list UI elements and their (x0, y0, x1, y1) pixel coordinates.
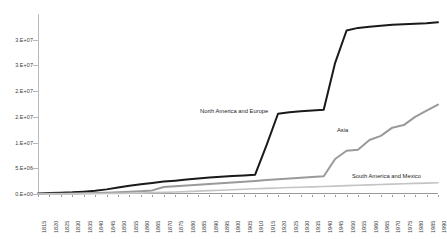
x-axis-tick (95, 195, 96, 197)
x-axis-labels: 1815182018251830183518401845185018551860… (38, 195, 438, 239)
x-axis-tick-label: 1830 (75, 221, 81, 233)
y-axis-tick (33, 91, 38, 92)
series-line-asia (38, 105, 438, 194)
y-axis-tick (33, 168, 38, 169)
x-axis-tick-label: 1960 (373, 221, 379, 233)
x-axis-tick-label: 1895 (224, 221, 230, 233)
x-axis-tick-label: 1990 (441, 221, 447, 233)
y-axis-tick (33, 117, 38, 118)
x-axis-tick-label: 1850 (121, 221, 127, 233)
x-axis-tick-label: 1935 (315, 221, 321, 233)
series-label-north-america-and-europe: North America and Europe (200, 108, 268, 115)
x-axis-tick-label: 1870 (167, 221, 173, 233)
x-axis-tick-label: 1945 (338, 221, 344, 233)
x-axis-tick-label: 1820 (53, 221, 59, 233)
x-axis-tick-label: 1860 (144, 221, 150, 233)
x-axis-tick-label: 1910 (258, 221, 264, 233)
x-axis-tick-label: 1845 (110, 221, 116, 233)
x-axis-tick (324, 195, 325, 197)
x-axis-tick (61, 195, 62, 197)
x-axis-tick-label: 1915 (270, 221, 276, 233)
x-axis-tick-label: 1890 (213, 221, 219, 233)
y-axis-tick (33, 194, 38, 195)
y-axis-tick (33, 65, 38, 66)
x-axis-tick-label: 1855 (133, 221, 139, 233)
x-axis-line (38, 193, 438, 194)
y-axis-tick-label: 2.E+07 (3, 88, 33, 94)
x-axis-tick-label: 1880 (190, 221, 196, 233)
x-axis-tick-label: 1950 (350, 221, 356, 233)
y-axis-tick (33, 143, 38, 144)
x-axis-tick-label: 1965 (384, 221, 390, 233)
x-axis-tick-label: 1865 (155, 221, 161, 233)
x-axis-tick (175, 195, 176, 197)
x-axis-tick (358, 195, 359, 197)
x-axis-tick (415, 195, 416, 197)
x-axis-tick (404, 195, 405, 197)
y-axis-tick-label: 2.E+07 (3, 114, 33, 120)
y-axis-tick-label: 1.E+07 (3, 140, 33, 146)
x-axis-tick-label: 1925 (293, 221, 299, 233)
x-axis-tick (427, 195, 428, 197)
x-axis-tick-label: 1875 (178, 221, 184, 233)
x-axis-tick (107, 195, 108, 197)
x-axis-tick (152, 195, 153, 197)
y-axis-tick-label: 3.E+07 (3, 62, 33, 68)
x-axis-tick (129, 195, 130, 197)
x-axis-tick-label: 1930 (304, 221, 310, 233)
x-axis-tick (232, 195, 233, 197)
x-axis-tick (244, 195, 245, 197)
x-axis-tick-label: 1825 (64, 221, 70, 233)
x-axis-tick-label: 1940 (327, 221, 333, 233)
x-axis-tick (255, 195, 256, 197)
x-axis-tick-label: 1840 (98, 221, 104, 233)
x-axis-tick (209, 195, 210, 197)
x-axis-tick (164, 195, 165, 197)
x-axis-tick (38, 195, 39, 197)
x-axis-tick (289, 195, 290, 197)
x-axis-tick-label: 1900 (235, 221, 241, 233)
x-axis-tick (187, 195, 188, 197)
y-axis-line (38, 14, 39, 194)
x-axis-tick-label: 1885 (201, 221, 207, 233)
x-axis-tick-label: 1975 (407, 221, 413, 233)
x-axis-tick (267, 195, 268, 197)
x-axis-tick (72, 195, 73, 197)
x-axis-tick (438, 195, 439, 197)
series-label-asia: Asia (337, 127, 348, 134)
x-axis-tick (49, 195, 50, 197)
x-axis-tick (381, 195, 382, 197)
x-axis-tick (301, 195, 302, 197)
x-axis-tick-label: 1835 (87, 221, 93, 233)
x-axis-tick (369, 195, 370, 197)
y-axis-tick (33, 40, 38, 41)
x-axis-tick (198, 195, 199, 197)
x-axis-tick-label: 1905 (247, 221, 253, 233)
x-axis-tick (312, 195, 313, 197)
x-axis-tick-label: 1985 (430, 221, 436, 233)
y-axis-tick-label: 0.E+00 (3, 191, 33, 197)
y-axis-tick-label: 3.E+07 (3, 37, 33, 43)
x-axis-tick (141, 195, 142, 197)
x-axis-tick (347, 195, 348, 197)
x-axis-tick (221, 195, 222, 197)
series-label-south-america-and-mexico: South America and Mexico (352, 173, 421, 180)
x-axis-tick-label: 1920 (281, 221, 287, 233)
x-axis-tick-label: 1980 (418, 221, 424, 233)
y-axis-tick-label: 5.E+06 (3, 165, 33, 171)
x-axis-tick-label: 1815 (41, 221, 47, 233)
x-axis-tick (278, 195, 279, 197)
x-axis-tick-label: 1955 (361, 221, 367, 233)
x-axis-tick (392, 195, 393, 197)
x-axis-tick (118, 195, 119, 197)
x-axis-tick-label: 1970 (395, 221, 401, 233)
x-axis-tick (84, 195, 85, 197)
x-axis-tick (335, 195, 336, 197)
y-axis-labels: 0.E+005.E+061.E+072.E+072.E+073.E+073.E+… (0, 0, 33, 239)
